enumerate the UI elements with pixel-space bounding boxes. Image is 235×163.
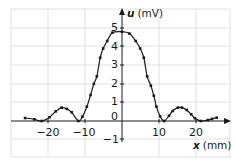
data-point-marker [111,31,114,34]
data-point-marker [86,105,89,108]
x-tick-label: 10 [152,126,166,139]
data-point-marker [89,94,92,97]
data-point-marker [24,117,27,120]
data-point-marker [81,115,84,118]
data-point-marker [96,75,99,78]
data-point-marker [171,110,174,113]
data-point-marker [143,56,146,59]
data-point-marker [168,114,171,117]
data-point-marker [102,47,105,50]
y-tick-label: 4 [111,40,118,53]
x-tick-labels: −20 −10 10 20 [36,126,203,139]
data-point-marker [207,119,210,122]
data-point-marker [128,32,131,35]
data-point-marker [48,116,51,119]
data-point-marker [66,108,69,111]
data-point-marker [70,111,73,114]
y-axis-label-var: u [127,7,135,19]
data-point-marker [40,120,43,123]
data-point-marker [121,30,124,33]
data-point-marker [134,40,137,43]
x-axis-label: x(mm) [192,139,231,151]
data-point-marker [159,115,162,118]
data-point-marker [139,47,142,50]
x-tick-label: −10 [72,126,95,139]
y-tick-label: 1 [111,95,118,108]
data-point-marker [155,105,158,108]
y-tick-label: 2 [111,77,118,90]
y-tick-label: −1 [103,133,119,146]
data-point-marker [146,75,149,78]
data-point-marker [93,83,96,86]
data-point-marker [215,116,218,119]
data-point-marker [77,120,80,123]
y-tick-label: 3 [111,58,118,71]
data-point-marker [177,106,180,109]
chart: −20 −10 10 20 −1 0 1 2 3 4 5 u(mV) x(mm) [0,0,235,163]
data-point-marker [190,113,193,116]
data-point-marker [106,40,109,43]
data-point-marker [60,106,63,109]
data-point-marker [194,117,197,120]
data-point-marker [200,120,203,123]
x-axis-label-var: x [192,139,201,151]
data-point-marker [150,84,153,87]
data-point-marker [54,110,57,113]
data-point-marker [211,118,214,121]
data-point-marker [185,109,188,112]
y-axis-label: u(mV) [127,7,163,19]
data-point-marker [99,56,102,59]
data-curve [25,32,217,122]
y-tick-labels: −1 0 1 2 3 4 5 [103,21,119,146]
y-tick-label: 0 [111,110,118,123]
data-point-marker [153,94,156,97]
data-point-marker [33,118,36,121]
data-point-marker [181,106,184,109]
data-point-marker [163,120,166,123]
x-tick-label: 20 [189,126,203,139]
x-axis-label-unit: (mm) [203,139,232,151]
data-points [24,30,218,122]
y-axis-label-unit: (mV) [137,7,163,19]
x-tick-label: −20 [36,126,59,139]
